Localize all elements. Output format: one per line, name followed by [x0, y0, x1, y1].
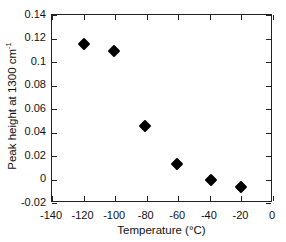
y-tick-label: 0.14	[2, 9, 46, 20]
y-tick-mark	[52, 180, 57, 181]
y-tick-mark-right	[266, 203, 271, 204]
x-tick-mark-top	[115, 15, 116, 20]
y-tick-mark-right	[266, 15, 271, 16]
plot-area	[51, 14, 272, 202]
x-tick-mark	[178, 196, 179, 201]
y-tick-mark	[52, 109, 57, 110]
y-tick-label: 0.1	[2, 56, 46, 67]
y-tick-mark-right	[266, 39, 271, 40]
x-tick-mark-top	[52, 15, 53, 20]
y-tick-label: 0.06	[2, 103, 46, 114]
data-point	[139, 120, 152, 133]
x-axis-title: Temperature (°C)	[51, 224, 272, 236]
y-tick-mark-right	[266, 133, 271, 134]
y-tick-mark-right	[266, 62, 271, 63]
y-tick-mark	[52, 39, 57, 40]
data-point	[205, 174, 218, 187]
y-tick-mark-right	[266, 109, 271, 110]
x-tick-mark	[84, 196, 85, 201]
x-tick-mark-top	[147, 15, 148, 20]
y-tick-mark	[52, 62, 57, 63]
x-tick-mark-top	[241, 15, 242, 20]
x-tick-mark	[273, 196, 274, 201]
y-tick-mark	[52, 133, 57, 134]
x-tick-mark	[52, 196, 53, 201]
y-tick-mark	[52, 203, 57, 204]
x-tick-mark-top	[273, 15, 274, 20]
x-tick-mark	[115, 196, 116, 201]
y-tick-label: 0	[2, 173, 46, 184]
x-tick-mark-top	[84, 15, 85, 20]
x-tick-mark-top	[210, 15, 211, 20]
data-point	[170, 157, 183, 170]
y-tick-mark	[52, 86, 57, 87]
y-tick-mark-right	[266, 156, 271, 157]
x-tick-mark	[210, 196, 211, 201]
data-point	[107, 44, 120, 57]
y-tick-mark	[52, 156, 57, 157]
x-tick-mark-top	[178, 15, 179, 20]
x-tick-mark	[147, 196, 148, 201]
data-point	[77, 38, 90, 51]
x-tick-mark	[241, 196, 242, 201]
chart-figure: Peak height at 1300 cm-1 0.140.120.10.08…	[0, 0, 286, 242]
y-tick-label: -0.02	[2, 197, 46, 208]
y-tick-mark-right	[266, 180, 271, 181]
y-tick-label: 0.02	[2, 150, 46, 161]
y-tick-label: 0.08	[2, 79, 46, 90]
y-tick-mark-right	[266, 86, 271, 87]
y-tick-label: 0.12	[2, 32, 46, 43]
y-tick-label: 0.04	[2, 126, 46, 137]
x-tick-label: 0	[252, 210, 286, 221]
data-point	[235, 180, 248, 193]
y-axis-title-superscript: -1	[4, 42, 13, 49]
